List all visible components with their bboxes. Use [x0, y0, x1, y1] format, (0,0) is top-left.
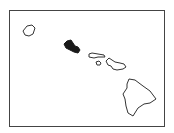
- island-maui[interactable]: [106, 58, 126, 70]
- island-kauai[interactable]: [23, 25, 35, 36]
- island-lanai[interactable]: [96, 61, 101, 65]
- island-hawaii[interactable]: [123, 79, 156, 116]
- hawaii-map: [0, 0, 174, 133]
- island-oahu[interactable]: [64, 40, 80, 53]
- island-molokai[interactable]: [89, 53, 105, 58]
